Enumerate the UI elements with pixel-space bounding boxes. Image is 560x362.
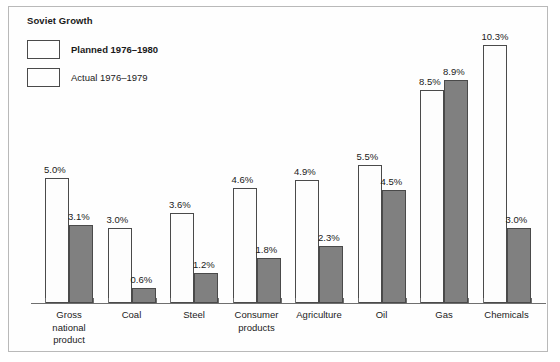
axis-tick <box>358 298 359 303</box>
bar-planned[interactable]: 10.3% <box>483 45 507 303</box>
category-label-line: national <box>27 322 111 335</box>
bar-pair: 3.0%0.6% <box>108 228 156 303</box>
bar-value-label: 3.0% <box>506 214 528 225</box>
bar-value-label: 2.3% <box>318 232 340 243</box>
category-label-line: Chemicals <box>465 309 549 322</box>
bar-value-label: 10.3% <box>482 31 509 42</box>
axis-tick <box>156 298 157 303</box>
axis-tick <box>218 298 219 303</box>
axis-tick <box>281 298 282 303</box>
axis-tick <box>233 298 234 303</box>
bar-pair: 10.3%3.0% <box>483 45 531 303</box>
bar-pair: 3.6%1.2% <box>170 213 218 303</box>
bar-value-label: 4.9% <box>294 166 316 177</box>
bar-planned[interactable]: 4.9% <box>295 180 319 303</box>
x-axis-line <box>31 303 546 304</box>
bar-actual[interactable]: 2.3% <box>319 246 343 303</box>
bar-value-label: 3.0% <box>107 214 129 225</box>
axis-tick <box>45 298 46 303</box>
bar-pair: 4.9%2.3% <box>295 180 343 303</box>
category-label-line: product <box>27 334 111 347</box>
bar-value-label: 3.1% <box>68 211 90 222</box>
axis-tick <box>468 298 469 303</box>
bar-actual[interactable]: 4.5% <box>382 190 406 303</box>
bar-planned[interactable]: 3.0% <box>108 228 132 303</box>
axis-tick <box>170 298 171 303</box>
axis-tick <box>420 298 421 303</box>
bar-actual[interactable]: 1.2% <box>194 273 218 303</box>
bar-planned[interactable]: 3.6% <box>170 213 194 303</box>
axis-tick <box>406 298 407 303</box>
bar-pair: 5.0%3.1% <box>45 178 93 303</box>
axis-tick <box>483 298 484 303</box>
bar-planned[interactable]: 5.5% <box>358 165 382 303</box>
bar-value-label: 4.6% <box>232 174 254 185</box>
bar-pair: 8.5%8.9% <box>420 80 468 303</box>
axis-tick <box>343 298 344 303</box>
axis-tick <box>531 298 532 303</box>
chart-figure: Soviet Growth Planned 1976–1980 Actual 1… <box>8 6 548 352</box>
bar-value-label: 1.2% <box>193 259 215 270</box>
bar-pair: 5.5%4.5% <box>358 165 406 303</box>
bar-value-label: 3.6% <box>169 199 191 210</box>
bar-value-label: 0.6% <box>131 274 153 285</box>
axis-tick <box>108 298 109 303</box>
bar-value-label: 8.5% <box>419 76 441 87</box>
bar-pair: 4.6%1.8% <box>233 188 281 303</box>
axis-tick <box>295 298 296 303</box>
category-label: Chemicals <box>465 309 549 322</box>
bar-value-label: 1.8% <box>256 244 278 255</box>
bar-value-label: 5.5% <box>357 151 379 162</box>
bar-value-label: 8.9% <box>443 66 465 77</box>
bar-planned[interactable]: 5.0% <box>45 178 69 303</box>
bar-value-label: 5.0% <box>44 164 66 175</box>
axis-tick <box>93 298 94 303</box>
bar-planned[interactable]: 8.5% <box>420 90 444 303</box>
bar-planned[interactable]: 4.6% <box>233 188 257 303</box>
bar-value-label: 4.5% <box>381 176 403 187</box>
category-label-line: products <box>215 322 299 335</box>
bar-actual[interactable]: 3.0% <box>507 228 531 303</box>
bar-actual[interactable]: 3.1% <box>69 225 93 303</box>
bar-actual[interactable]: 0.6% <box>132 288 156 303</box>
bar-actual[interactable]: 8.9% <box>444 80 468 303</box>
bar-actual[interactable]: 1.8% <box>257 258 281 303</box>
chart-plot-area: 5.0%3.1%3.0%0.6%3.6%1.2%4.6%1.8%4.9%2.3%… <box>9 7 549 353</box>
